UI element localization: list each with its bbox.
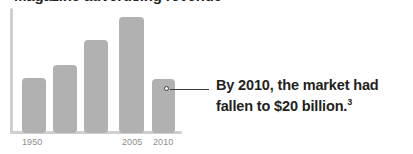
callout-leader-line [170,89,209,91]
bar-2 [53,65,77,133]
callout-line-1: By 2010, the market had [216,77,379,93]
plot-area: 1950 2005 2010 [0,0,200,154]
y-axis-line [10,8,13,134]
x-axis-tick-label-1950: 1950 [22,137,42,147]
x-axis-tick-label-2010: 2010 [153,137,173,147]
callout-marker-dot [164,86,169,91]
callout-annotation-text: By 2010, the market had fallen to $20 bi… [216,75,412,117]
footnote-superscript: 3 [347,97,352,107]
x-axis-tick-label-2005: 2005 [122,137,142,147]
bar-2005 [119,17,144,133]
bar-chart-figure: Magazine advertising revenue 1950 2005 2… [0,0,413,154]
callout-line-2: fallen to $20 billion. [216,98,347,114]
bar-1950 [22,78,46,133]
bar-3 [84,40,108,133]
